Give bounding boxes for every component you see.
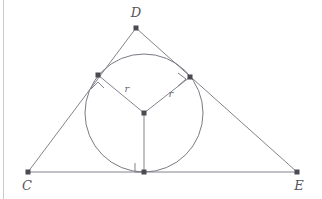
angle-caret-right-icon bbox=[178, 73, 186, 86]
point-marker-e bbox=[295, 170, 300, 175]
point-marker-tangent-right bbox=[188, 75, 193, 80]
point-marker-tangent-left bbox=[96, 73, 101, 78]
point-marker-d bbox=[134, 26, 139, 31]
incircle-diagram: D C E r r bbox=[0, 0, 322, 199]
point-marker-tangent-bottom bbox=[142, 170, 147, 175]
radius-segment-right bbox=[144, 77, 190, 113]
point-marker-incenter bbox=[142, 111, 147, 116]
radius-label-left: r bbox=[125, 83, 131, 94]
radius-segment-left bbox=[98, 75, 144, 113]
point-marker-c bbox=[26, 170, 31, 175]
triangle-side-dc bbox=[28, 28, 136, 172]
vertex-label-e: E bbox=[293, 178, 304, 193]
vertex-label-c: C bbox=[22, 178, 32, 193]
geometry-figure-canvas: D C E r r bbox=[0, 0, 322, 199]
vertex-label-d: D bbox=[130, 5, 142, 20]
